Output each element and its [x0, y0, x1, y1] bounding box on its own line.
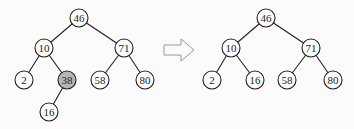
node-label: 71 — [119, 42, 130, 54]
after_tree-node-10: 10 — [222, 39, 240, 57]
node-label: 46 — [74, 12, 86, 24]
after-tree: 4610712165880 — [203, 9, 342, 89]
before_tree-node-16: 16 — [40, 103, 58, 121]
node-label: 2 — [209, 74, 215, 86]
node-label: 46 — [261, 12, 273, 24]
node-label: 2 — [21, 74, 27, 86]
node-label: 16 — [250, 74, 262, 86]
hollow-right-arrow-icon — [164, 39, 194, 61]
before-tree-edges — [24, 18, 145, 112]
node-label: 71 — [306, 42, 317, 54]
node-label: 10 — [226, 42, 238, 54]
node-label: 58 — [282, 74, 294, 86]
before_tree-node-10: 10 — [35, 39, 53, 57]
node-label: 16 — [44, 106, 56, 118]
node-label: 80 — [328, 74, 340, 86]
node-label: 80 — [140, 74, 152, 86]
node-label: 38 — [62, 74, 74, 86]
before_tree-node-80: 80 — [136, 71, 154, 89]
before_tree-node-46: 46 — [70, 9, 88, 27]
after_tree-node-58: 58 — [278, 71, 296, 89]
bst-deletion-diagram: 461071238588016 4610712165880 — [0, 0, 354, 129]
before_tree-node-2: 2 — [15, 71, 33, 89]
after_tree-node-71: 71 — [302, 39, 320, 57]
before_tree-node-38: 38 — [58, 71, 76, 89]
before_tree-node-71: 71 — [115, 39, 133, 57]
node-label: 10 — [39, 42, 51, 54]
after_tree-node-46: 46 — [257, 9, 275, 27]
node-label: 58 — [95, 74, 107, 86]
diagram-svg: 461071238588016 4610712165880 — [0, 0, 354, 129]
after_tree-node-16: 16 — [246, 71, 264, 89]
before-tree: 461071238588016 — [15, 9, 154, 121]
before_tree-node-58: 58 — [91, 71, 109, 89]
after_tree-node-80: 80 — [324, 71, 342, 89]
after_tree-node-2: 2 — [203, 71, 221, 89]
